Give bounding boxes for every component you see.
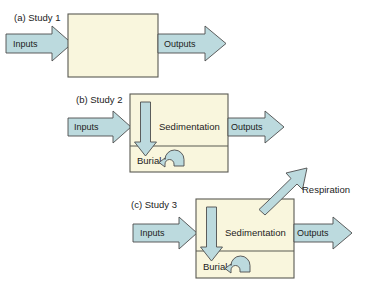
panel-c-inputs-arrow: Inputs [133, 217, 197, 249]
panel-a-label: (a) Study 1 [14, 12, 60, 23]
panel-c-respiration: Respiration [259, 168, 350, 215]
panel-b-label: (b) Study 2 [76, 94, 122, 105]
panel-b-outputs-arrow: Outputs [228, 111, 284, 143]
panel-b-burial-label: Burial [137, 155, 161, 166]
panel-a-outputs-arrow: Outputs [158, 26, 226, 61]
panel-c-group: (c) Study 3 Inputs Respiration Sedimenta… [131, 168, 352, 278]
flow-diagram-svg: (a) Study 1 Inputs Outputs (b) Study 2 I… [0, 0, 373, 293]
panel-a-box [68, 14, 158, 77]
panel-c-outputs-label: Outputs [297, 228, 329, 238]
panel-c-burial-label: Burial [203, 261, 227, 272]
panel-b-inputs-label: Inputs [74, 122, 99, 132]
panel-c-outputs-arrow: Outputs [294, 217, 352, 249]
panel-a-inputs-arrow: Inputs [6, 26, 72, 61]
panel-c-respiration-label: Respiration [302, 184, 350, 195]
figure-container: (a) Study 1 Inputs Outputs (b) Study 2 I… [0, 0, 373, 293]
panel-a-outputs-label: Outputs [164, 39, 196, 49]
panel-c-sedimentation-label: Sedimentation [225, 227, 286, 238]
panel-b-sedimentation-label: Sedimentation [159, 121, 220, 132]
panel-c-label: (c) Study 3 [131, 199, 177, 210]
panel-b-group: (b) Study 2 Inputs Sedimentation Burial [68, 94, 284, 172]
panel-a-inputs-label: Inputs [13, 39, 38, 49]
panel-c-inputs-label: Inputs [140, 228, 165, 238]
panel-b-outputs-label: Outputs [231, 122, 263, 132]
panel-a-group: (a) Study 1 Inputs Outputs [6, 12, 226, 77]
panel-b-inputs-arrow: Inputs [68, 111, 131, 143]
